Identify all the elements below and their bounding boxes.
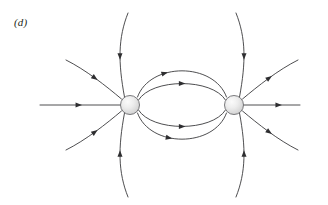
field-line	[66, 111, 122, 150]
field-line	[139, 110, 226, 127]
field-arrowhead	[241, 150, 246, 157]
field-arrowhead	[165, 135, 172, 141]
field-line-figure: (d)	[0, 0, 328, 205]
field-line-canvas	[0, 0, 328, 205]
charge-spheres-group	[121, 96, 244, 115]
field-arrowhead	[241, 53, 246, 60]
field-arrowhead	[117, 53, 122, 60]
left-charge	[121, 96, 140, 115]
field-arrowhead	[117, 150, 122, 157]
field-line	[243, 111, 299, 150]
field-line	[66, 60, 122, 99]
right-charge	[225, 96, 244, 115]
field-arrowhead	[76, 103, 83, 108]
field-arrowhead	[179, 124, 186, 129]
field-arrowhead	[179, 81, 186, 86]
field-arrowhead	[161, 70, 169, 77]
field-arrowhead	[275, 103, 282, 108]
field-line	[139, 84, 226, 101]
field-line	[243, 60, 299, 99]
